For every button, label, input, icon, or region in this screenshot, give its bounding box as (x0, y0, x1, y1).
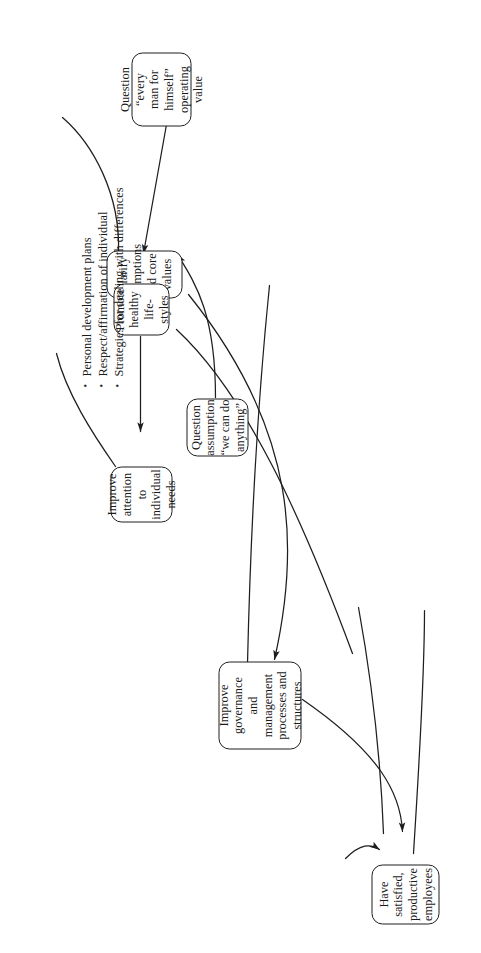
annotation-bullet-item: Strategies for dealing with differences (110, 187, 126, 387)
connector-layer (0, 0, 481, 953)
annotation-bullet-item: Respect/affirmation of individual (94, 187, 110, 387)
edge-improve-governance-to-offcanvas (247, 285, 269, 663)
edge-question-anything-to-clarify (177, 254, 215, 397)
node-question-assumption-anything-label: Questionassumption“we can doanything” (188, 399, 247, 455)
annotation-bullet-item: Personal development plans (78, 187, 94, 387)
node-have-satisfied-productive-employees-label: Havesatisfied,productiveemployees (376, 868, 435, 921)
node-question-assumption-anything[interactable]: Questionassumption“we can doanything” (186, 398, 248, 456)
node-have-satisfied-productive-employees[interactable]: Havesatisfied,productiveemployees (371, 864, 439, 924)
diagram-canvas: Clarifyassumptionsand corevalues Questio… (0, 0, 481, 953)
edge-clarify-to-improve-governance (188, 294, 287, 659)
node-question-every-man-for-himself[interactable]: Question “everyman for himself”operating… (131, 52, 191, 126)
node-improve-attention-individual-needs-label: Improveattention toindividualneeds (104, 469, 177, 519)
node-improve-governance-management-label: Improvegovernance andmanagementprocesses… (216, 667, 304, 743)
edge-improve-governance-to-have-satisfied (302, 699, 402, 831)
edge-promote-healthy-to-offcanvas (176, 329, 352, 653)
edge-have-satisfied-to-offcanvas-upper (358, 607, 383, 833)
node-improve-attention-individual-needs[interactable]: Improveattention toindividualneeds (110, 466, 172, 522)
node-question-every-man-for-himself-label: Question “everyman for himself”operating… (117, 58, 205, 120)
edge-have-satisfied-to-offcanvas-lower (413, 610, 424, 853)
diagram-stage: Clarifyassumptionsand corevalues Questio… (0, 0, 481, 953)
edge-question-every-man-to-clarify (143, 124, 166, 253)
annotation-bullet-list: Personal development plans Respect/affir… (78, 187, 126, 387)
edge-offcanvas-to-have-satisfied (345, 845, 379, 858)
node-improve-governance-management[interactable]: Improvegovernance andmanagementprocesses… (218, 661, 301, 749)
annotation-attention-bullets: Personal development plans Respect/affir… (78, 187, 126, 387)
